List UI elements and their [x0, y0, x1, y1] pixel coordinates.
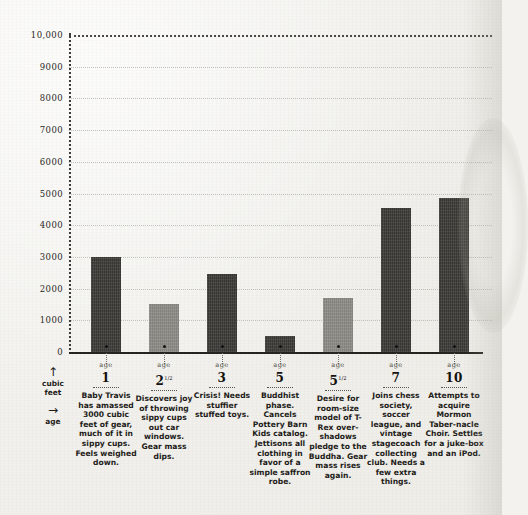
- column-caption: Crisis! Needs stuffier stuffed toys.: [191, 391, 253, 420]
- y-axis-tick-label: 4000: [0, 220, 63, 230]
- y-axis-tick-label: 1000: [0, 315, 63, 325]
- bar-fill: [91, 257, 121, 352]
- right-arrow-icon: →: [28, 404, 78, 417]
- bar-base-dot: [279, 345, 282, 348]
- y-axis-line: [69, 33, 71, 354]
- chart-column-5: age51/2Desire for room-size model of T-R…: [307, 361, 369, 480]
- column-caption: Discovers joy of throwing sippy cups out…: [133, 394, 195, 461]
- age-label-word: age: [365, 361, 427, 371]
- bar-fill: [381, 208, 411, 352]
- age-label-word: age: [307, 361, 369, 371]
- y-axis-legend: ↑ cubic feet: [28, 366, 78, 397]
- y-axis-tick-label: 5000: [0, 189, 63, 199]
- age-label-number: 5: [249, 372, 311, 384]
- age-label-number: 1: [75, 372, 137, 384]
- gridline: [69, 194, 492, 195]
- bar: [91, 257, 121, 352]
- gridline: [69, 225, 492, 226]
- y-axis-tick-label: 9000: [0, 62, 63, 72]
- y-axis-tick-label: 2000: [0, 284, 63, 294]
- y-axis-tick-label: 6000: [0, 157, 63, 167]
- column-caption: Baby Travis has amassed 3000 cubic feet …: [75, 391, 137, 468]
- y-axis-tick-label: 7000: [0, 125, 63, 135]
- age-label-word: age: [133, 361, 195, 371]
- bar-base-dot: [337, 345, 340, 348]
- gridline: [69, 67, 492, 68]
- gridline: [69, 289, 492, 290]
- x-axis-baseline: [69, 352, 483, 354]
- age-label-word: age: [191, 361, 253, 371]
- chart-column-6: age7Joins chess society, soccer league, …: [365, 361, 427, 487]
- bar: [207, 274, 237, 352]
- column-caption: Desire for room-size model of T-Rex over…: [307, 394, 369, 480]
- caption-divider: [325, 390, 351, 391]
- gridline: [69, 257, 492, 258]
- age-label-word: age: [249, 361, 311, 371]
- scan-edge-artifact: [458, 118, 528, 333]
- chart-column-1: age1Baby Travis has amassed 3000 cubic f…: [75, 361, 137, 468]
- y-axis-legend-line2: feet: [45, 388, 62, 397]
- caption-divider: [209, 387, 235, 388]
- age-label-word: age: [75, 361, 137, 371]
- x-axis-legend: → age: [28, 404, 78, 426]
- age-label-fraction: 1/2: [338, 375, 346, 381]
- bar-base-dot: [395, 345, 398, 348]
- gridline: [69, 130, 492, 131]
- age-label-fraction: 1/2: [164, 375, 172, 381]
- bar-fill: [207, 274, 237, 352]
- gridline: [69, 35, 492, 37]
- bar: [323, 298, 353, 352]
- bar: [381, 208, 411, 352]
- age-label-number: 7: [365, 372, 427, 384]
- y-axis-tick-label: 0: [0, 347, 63, 357]
- y-axis-tick-label: 3000: [0, 252, 63, 262]
- chart-column-3: age3Crisis! Needs stuffier stuffed toys.: [191, 361, 253, 420]
- bar-fill: [323, 298, 353, 352]
- gridline: [69, 320, 492, 321]
- bar-base-dot: [163, 345, 166, 348]
- y-axis-tick-label: 10,000: [0, 30, 63, 40]
- age-label-number: 51/2: [307, 372, 369, 387]
- bar-base-dot: [221, 345, 224, 348]
- up-arrow-icon: ↑: [28, 366, 78, 379]
- age-label-number: 21/2: [133, 372, 195, 387]
- x-axis-legend-line1: age: [45, 417, 60, 426]
- gridline: [69, 98, 492, 99]
- y-axis-legend-line1: cubic: [42, 379, 64, 388]
- chart-column-2: age21/2Discovers joy of throwing sippy c…: [133, 361, 195, 461]
- bar: [265, 336, 295, 352]
- caption-divider: [267, 387, 293, 388]
- caption-divider: [93, 387, 119, 388]
- column-caption: Joins chess society, soccer league, and …: [365, 391, 427, 487]
- bar: [149, 304, 179, 352]
- y-axis-tick-label: 8000: [0, 93, 63, 103]
- age-label-number: 3: [191, 372, 253, 384]
- caption-divider: [151, 390, 177, 391]
- chart-column-4: age5Buddhist phase. Cancels Pottery Barn…: [249, 361, 311, 487]
- gridline: [69, 162, 492, 163]
- caption-divider: [383, 387, 409, 388]
- bar-base-dot: [105, 345, 108, 348]
- column-caption: Buddhist phase. Cancels Pottery Barn Kid…: [249, 391, 311, 487]
